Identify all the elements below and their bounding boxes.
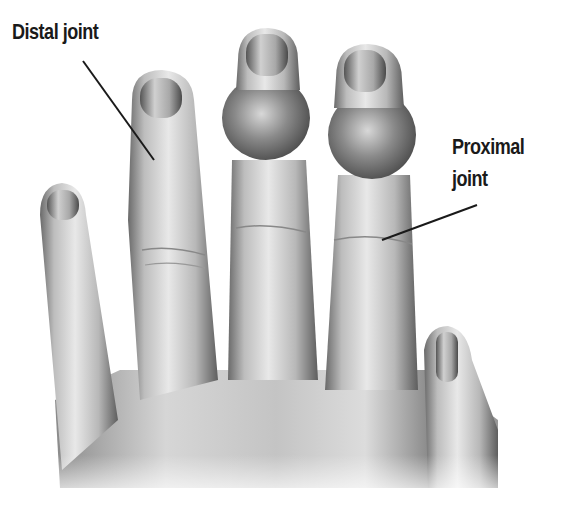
distal-joint-label: Distal joint [12, 18, 98, 45]
second-finger [128, 70, 218, 400]
proximal-joint-label-line1: Proximal [452, 133, 524, 160]
hand-illustration [0, 0, 567, 506]
ring-finger [325, 44, 418, 390]
middle-finger [222, 28, 318, 380]
proximal-joint-label-line2: joint [452, 165, 488, 192]
little-finger [40, 183, 118, 470]
